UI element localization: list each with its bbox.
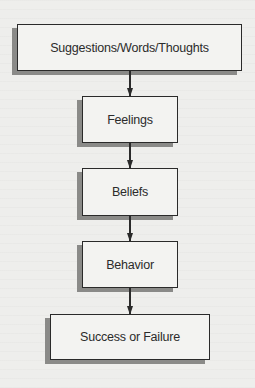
- node-suggestions-words-thoughts: Suggestions/Words/Thoughts: [17, 24, 242, 71]
- node-label: Behavior: [106, 258, 154, 272]
- arrow-feelings-to-beliefs: [129, 143, 131, 168]
- node-label: Suggestions/Words/Thoughts: [50, 41, 209, 55]
- arrow-suggestions-to-feelings: [129, 71, 131, 96]
- node-label: Beliefs: [112, 185, 148, 199]
- arrow-beliefs-to-behavior: [129, 216, 131, 241]
- arrow-behavior-to-outcome: [129, 288, 131, 314]
- node-beliefs: Beliefs: [82, 168, 178, 216]
- node-label: Feelings: [107, 113, 153, 127]
- node-success-or-failure: Success or Failure: [50, 314, 210, 360]
- node-label: Success or Failure: [80, 330, 180, 344]
- node-behavior: Behavior: [82, 241, 178, 288]
- node-feelings: Feelings: [82, 96, 178, 143]
